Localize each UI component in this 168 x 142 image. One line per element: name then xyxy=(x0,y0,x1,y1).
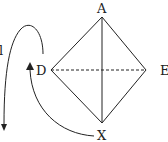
arrowhead-up-icon xyxy=(26,62,34,70)
curved-arrow-x-to-d xyxy=(30,70,94,136)
edge-a-e xyxy=(102,17,146,70)
edge-a-d xyxy=(51,17,102,70)
vertex-label-a: A xyxy=(96,1,107,16)
edge-d-x xyxy=(51,70,102,123)
edge-e-x xyxy=(102,70,146,123)
arrowhead-down-icon xyxy=(1,124,7,131)
partial-label: l xyxy=(0,43,3,58)
pyramid-diagram: A D E X l xyxy=(0,0,168,142)
vertex-label-d: D xyxy=(36,63,46,78)
vertex-label-e: E xyxy=(160,63,168,78)
vertex-label-x: X xyxy=(97,128,107,142)
